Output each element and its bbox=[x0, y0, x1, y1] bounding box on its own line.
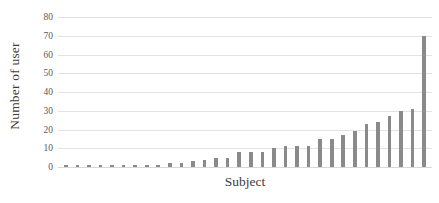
bar bbox=[180, 163, 184, 167]
y-tick-label: 80 bbox=[44, 12, 54, 22]
y-axis-title-text: Number of user bbox=[7, 42, 23, 130]
bar bbox=[64, 165, 68, 167]
y-tick-label: 70 bbox=[44, 31, 54, 41]
bar bbox=[203, 160, 207, 168]
bar-slot bbox=[222, 17, 234, 167]
bar-slot bbox=[280, 17, 292, 167]
bars-layer bbox=[58, 17, 432, 167]
bar-slot bbox=[407, 17, 419, 167]
bar bbox=[376, 122, 380, 167]
bar-slot bbox=[129, 17, 141, 167]
bar-slot bbox=[60, 17, 72, 167]
bar bbox=[133, 165, 137, 167]
bar-slot bbox=[141, 17, 153, 167]
bar bbox=[341, 135, 345, 167]
bar-slot bbox=[245, 17, 257, 167]
bar bbox=[330, 139, 334, 167]
bar-slot bbox=[418, 17, 430, 167]
bar bbox=[365, 124, 369, 167]
bar bbox=[237, 152, 241, 167]
bar bbox=[318, 139, 322, 167]
bar bbox=[422, 36, 426, 167]
bar-slot bbox=[372, 17, 384, 167]
bar-slot bbox=[349, 17, 361, 167]
bar bbox=[307, 146, 311, 167]
bar-slot bbox=[83, 17, 95, 167]
bar-slot bbox=[106, 17, 118, 167]
bar-slot bbox=[210, 17, 222, 167]
y-tick-label: 60 bbox=[44, 50, 54, 60]
bar-slot bbox=[233, 17, 245, 167]
bar bbox=[226, 158, 230, 167]
bar-slot bbox=[187, 17, 199, 167]
bar bbox=[272, 148, 276, 167]
bar bbox=[214, 158, 218, 167]
bar-slot bbox=[257, 17, 269, 167]
bar bbox=[388, 116, 392, 167]
bar bbox=[353, 131, 357, 167]
y-tick-label: 20 bbox=[44, 125, 54, 135]
bar-chart: Number of user 80706050403020100 Subject bbox=[0, 0, 439, 203]
bar-slot bbox=[291, 17, 303, 167]
bar bbox=[249, 152, 253, 167]
bar bbox=[87, 165, 91, 167]
y-tick-label: 50 bbox=[44, 68, 54, 78]
bar-slot bbox=[314, 17, 326, 167]
bar-slot bbox=[395, 17, 407, 167]
bar-slot bbox=[176, 17, 188, 167]
bar bbox=[191, 161, 195, 167]
bar bbox=[411, 109, 415, 167]
bar bbox=[295, 146, 299, 167]
bar bbox=[168, 163, 172, 167]
y-tick-label: 10 bbox=[44, 143, 54, 153]
y-tick-label: 0 bbox=[48, 162, 53, 172]
bar bbox=[122, 165, 126, 167]
plot-area bbox=[58, 17, 432, 167]
bar bbox=[99, 165, 103, 167]
bar bbox=[145, 165, 149, 167]
y-axis-title: Number of user bbox=[0, 0, 30, 172]
y-axis-tick-labels: 80706050403020100 bbox=[30, 10, 56, 168]
y-tick-label: 40 bbox=[44, 87, 54, 97]
bar bbox=[399, 111, 403, 167]
bar-slot bbox=[118, 17, 130, 167]
y-tick-label: 30 bbox=[44, 106, 54, 116]
x-axis-title: Subject bbox=[58, 174, 432, 190]
bar-slot bbox=[72, 17, 84, 167]
bar-slot bbox=[95, 17, 107, 167]
bar-slot bbox=[164, 17, 176, 167]
gridline bbox=[58, 167, 432, 168]
bar-slot bbox=[199, 17, 211, 167]
bar bbox=[261, 152, 265, 167]
bar bbox=[284, 146, 288, 167]
bar-slot bbox=[338, 17, 350, 167]
bar bbox=[156, 165, 160, 167]
bar-slot bbox=[303, 17, 315, 167]
bar-slot bbox=[361, 17, 373, 167]
bar bbox=[76, 165, 80, 167]
bar-slot bbox=[153, 17, 165, 167]
bar bbox=[110, 165, 114, 167]
bar-slot bbox=[268, 17, 280, 167]
bar-slot bbox=[326, 17, 338, 167]
bar-slot bbox=[384, 17, 396, 167]
